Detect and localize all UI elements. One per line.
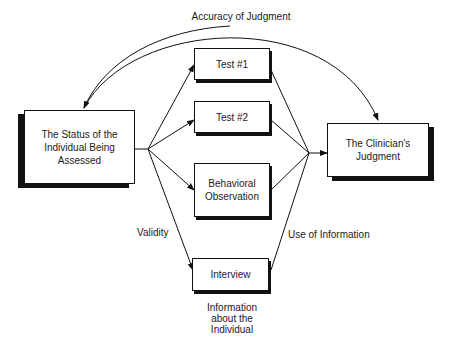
status-node: The Status of the Individual Being Asses…: [24, 110, 135, 184]
validity-label: Validity: [137, 227, 169, 239]
judgment-line1: The Clinician's: [346, 137, 411, 150]
behavioral-line2: Observation: [205, 190, 259, 203]
status-line3: Assessed: [41, 154, 117, 167]
behavioral-node: Behavioral Observation: [194, 163, 270, 217]
test1-label: Test #1: [216, 58, 248, 71]
status-line2: Individual Being: [41, 141, 117, 154]
judgment-line2: Judgment: [346, 150, 411, 163]
caption-line3: Individual: [196, 324, 268, 335]
status-line1: The Status of the: [41, 128, 117, 141]
test1-node: Test #1: [194, 48, 270, 80]
interview-node: Interview: [192, 258, 269, 291]
behavioral-line1: Behavioral: [205, 177, 259, 190]
interview-label: Interview: [210, 268, 250, 281]
caption-line2: about the: [196, 313, 268, 324]
test2-label: Test #2: [216, 111, 248, 124]
use-of-information-label: Use of Information: [288, 229, 370, 241]
accuracy-label: Accuracy of Judgment: [186, 11, 296, 23]
judgment-node: The Clinician's Judgment: [327, 123, 429, 177]
test2-node: Test #2: [194, 101, 270, 133]
caption: Information about the Individual: [196, 302, 268, 335]
caption-line1: Information: [196, 302, 268, 313]
